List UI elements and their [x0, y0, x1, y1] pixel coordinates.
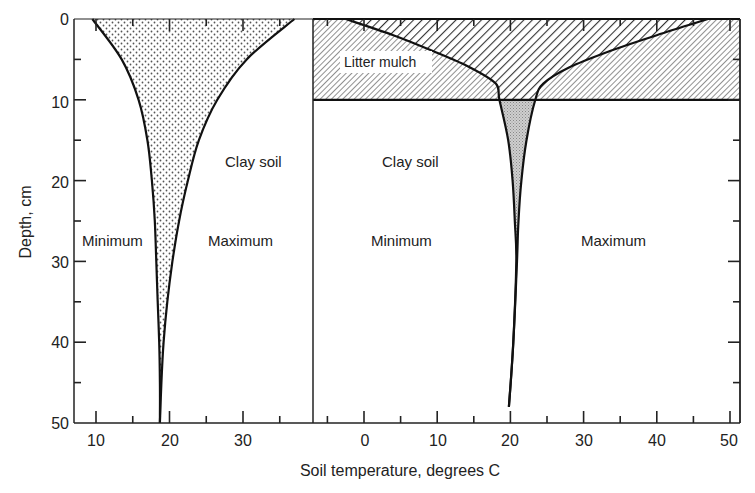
mulch-label: Litter mulch	[344, 54, 416, 70]
y-tick-label: 20	[51, 174, 69, 191]
x-tick-label: 30	[575, 432, 593, 449]
soil-temperature-chart: Depth, cm Soil temperature, degrees C 0 …	[0, 0, 755, 493]
x-tick-label: 10	[87, 432, 105, 449]
x-tick-label: 40	[648, 432, 666, 449]
left-maximum-label: Maximum	[208, 232, 273, 249]
y-axis-title: Depth, cm	[17, 186, 34, 259]
x-tick-label: 0	[361, 432, 370, 449]
y-tick-label: 30	[51, 254, 69, 271]
y-tick-label: 0	[60, 11, 69, 28]
x-axis-title: Soil temperature, degrees C	[300, 462, 500, 479]
right-maximum-label: Maximum	[581, 232, 646, 249]
x-tick-label: 10	[429, 432, 447, 449]
y-tick-label: 10	[51, 94, 69, 111]
x-tick-label: 20	[161, 432, 179, 449]
y-tick-label: 40	[51, 334, 69, 351]
y-tick-labels: 0 10 20 30 40 50	[51, 11, 69, 432]
left-minimum-label: Minimum	[82, 232, 143, 249]
x-tick-label: 30	[234, 432, 252, 449]
left-range-fill	[92, 19, 294, 423]
x-tick-label: 50	[720, 432, 738, 449]
left-x-tick-labels: 10 20 30	[87, 432, 252, 449]
right-x-tick-labels: 0 10 20 30 40 50	[361, 432, 738, 449]
right-soil-label: Clay soil	[382, 153, 439, 170]
right-minimum-label: Minimum	[371, 232, 432, 249]
y-tick-label: 50	[51, 415, 69, 432]
x-tick-label: 20	[501, 432, 519, 449]
left-panel-bare-clay	[92, 19, 294, 423]
left-soil-label: Clay soil	[225, 153, 282, 170]
right-panel-mulched-clay	[313, 19, 740, 407]
